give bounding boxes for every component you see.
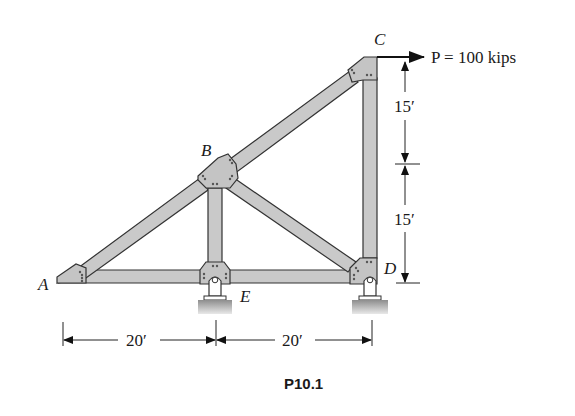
joint-label-E: E [239, 287, 251, 306]
dim-ED-20: 20′ [282, 331, 303, 350]
member-BE [208, 188, 222, 264]
member-BD [226, 178, 356, 272]
ground-E [198, 300, 232, 314]
truss-diagram: P = 100 kips A B C D E 15′ 15′ 20′ 20′ P… [0, 0, 575, 416]
joint-label-B: B [201, 141, 212, 160]
dim-AE-20: 20′ [126, 331, 147, 350]
ground-D [352, 300, 388, 314]
member-BC [226, 71, 358, 174]
horizontal-dimension: 20′ 20′ [63, 320, 372, 350]
load-label: P = 100 kips [431, 48, 516, 67]
member-CD [363, 78, 377, 258]
dim-upper-15: 15′ [394, 97, 415, 116]
joint-label-D: D [383, 259, 397, 278]
figure-caption: P10.1 [284, 375, 323, 392]
joint-label-A: A [37, 275, 49, 294]
dim-lower-15: 15′ [394, 210, 415, 229]
member-ED [228, 270, 352, 283]
vertical-dimension: 15′ 15′ [394, 62, 420, 283]
joint-label-C: C [374, 30, 386, 49]
